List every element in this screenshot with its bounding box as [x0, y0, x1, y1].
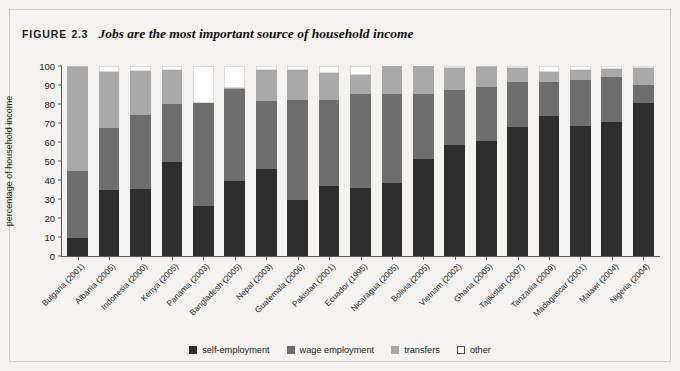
y-axis-tick-mark	[58, 237, 62, 238]
bar-segment-self-employment[interactable]	[570, 126, 591, 256]
bar-segment-self-employment[interactable]	[476, 141, 497, 256]
bar-segment-wage-employment[interactable]	[601, 77, 622, 122]
y-axis-tick-mark	[58, 142, 62, 143]
x-axis-tick-mark	[549, 256, 550, 260]
bar-stack[interactable]	[507, 66, 528, 256]
bar-segment-self-employment[interactable]	[130, 189, 151, 256]
bar-segment-wage-employment[interactable]	[130, 115, 151, 188]
bar-segment-wage-employment[interactable]	[539, 82, 560, 116]
legend-label: transfers	[404, 345, 440, 355]
bar-segment-transfers[interactable]	[601, 69, 622, 78]
bar-stack[interactable]	[570, 66, 591, 256]
bar-segment-wage-employment[interactable]	[476, 87, 497, 141]
y-axis-tick-mark	[58, 161, 62, 162]
bar-stack[interactable]	[256, 66, 277, 256]
bar-segment-wage-employment[interactable]	[224, 89, 245, 181]
bar-segment-transfers[interactable]	[570, 70, 591, 80]
bar-segment-self-employment[interactable]	[444, 145, 465, 256]
bar-segment-wage-employment[interactable]	[570, 80, 591, 126]
bar-segment-transfers[interactable]	[256, 70, 277, 101]
x-axis-tick-mark	[141, 256, 142, 260]
y-axis-tick-mark	[58, 104, 62, 105]
bar-segment-self-employment[interactable]	[162, 162, 183, 256]
bar-segment-self-employment[interactable]	[413, 159, 434, 256]
bar-segment-self-employment[interactable]	[601, 122, 622, 256]
bar-segment-wage-employment[interactable]	[633, 85, 654, 103]
bar-stack[interactable]	[382, 66, 403, 256]
bar-segment-transfers[interactable]	[350, 75, 371, 94]
bar-segment-self-employment[interactable]	[193, 206, 214, 256]
bar-segment-transfers[interactable]	[67, 67, 88, 172]
legend-item-other[interactable]: other	[457, 345, 491, 355]
bar-segment-self-employment[interactable]	[67, 238, 88, 256]
bar-segment-wage-employment[interactable]	[350, 94, 371, 188]
bar-segment-other[interactable]	[350, 66, 371, 75]
y-axis-tick-mark	[58, 180, 62, 181]
bar-segment-transfers[interactable]	[633, 68, 654, 85]
bar-stack[interactable]	[539, 66, 560, 256]
bar-segment-self-employment[interactable]	[224, 181, 245, 256]
y-axis-label: percentage of household income	[4, 96, 14, 227]
bar-segment-wage-employment[interactable]	[67, 171, 88, 238]
bar-segment-other[interactable]	[319, 66, 340, 73]
legend-swatch-icon	[457, 346, 465, 354]
bar-stack[interactable]	[224, 66, 245, 256]
y-axis-tick-mark	[58, 66, 62, 67]
bar-segment-transfers[interactable]	[382, 66, 403, 94]
x-axis-tick-mark	[109, 256, 110, 260]
x-axis-tick-mark	[298, 256, 299, 260]
bar-segment-wage-employment[interactable]	[413, 94, 434, 160]
bar-segment-transfers[interactable]	[162, 70, 183, 104]
bar-segment-wage-employment[interactable]	[444, 90, 465, 145]
bar-segment-self-employment[interactable]	[319, 186, 340, 256]
bar-stack[interactable]	[601, 66, 622, 256]
bar-stack[interactable]	[633, 66, 654, 256]
bar-segment-transfers[interactable]	[539, 72, 560, 82]
bar-segment-transfers[interactable]	[413, 66, 434, 94]
bar-segment-wage-employment[interactable]	[193, 103, 214, 206]
bar-segment-self-employment[interactable]	[633, 103, 654, 256]
bar-segment-transfers[interactable]	[130, 71, 151, 116]
bar-segment-wage-employment[interactable]	[162, 104, 183, 162]
bar-segment-self-employment[interactable]	[382, 183, 403, 256]
bar-segment-wage-employment[interactable]	[287, 100, 308, 200]
bar-stack[interactable]	[287, 66, 308, 256]
legend-item-wage-employment[interactable]: wage employment	[287, 345, 375, 355]
bar-segment-transfers[interactable]	[444, 68, 465, 90]
bar-stack[interactable]	[476, 66, 497, 256]
bar-stack[interactable]	[130, 66, 151, 256]
x-axis-tick-mark	[392, 256, 393, 260]
bar-segment-transfers[interactable]	[476, 67, 497, 87]
bar-segment-other[interactable]	[193, 66, 214, 103]
bar-segment-transfers[interactable]	[99, 72, 120, 128]
bar-segment-wage-employment[interactable]	[319, 100, 340, 186]
x-axis-tick-mark	[643, 256, 644, 260]
y-axis-tick-mark	[58, 123, 62, 124]
bar-segment-self-employment[interactable]	[99, 190, 120, 257]
bar-stack[interactable]	[319, 66, 340, 256]
bar-stack[interactable]	[413, 66, 434, 256]
bar-segment-transfers[interactable]	[287, 70, 308, 100]
bar-stack[interactable]	[193, 66, 214, 256]
bar-segment-self-employment[interactable]	[287, 200, 308, 256]
bar-segment-self-employment[interactable]	[350, 188, 371, 256]
bar-segment-self-employment[interactable]	[507, 127, 528, 256]
bar-segment-wage-employment[interactable]	[99, 128, 120, 190]
bar-stack[interactable]	[162, 66, 183, 256]
bar-stack[interactable]	[444, 66, 465, 256]
bar-segment-other[interactable]	[224, 66, 245, 88]
legend-item-transfers[interactable]: transfers	[391, 345, 440, 355]
bar-segment-transfers[interactable]	[507, 68, 528, 82]
bar-segment-self-employment[interactable]	[539, 116, 560, 256]
x-axis-tick-mark	[235, 256, 236, 260]
bar-segment-wage-employment[interactable]	[507, 82, 528, 127]
bar-segment-transfers[interactable]	[319, 73, 340, 101]
bar-segment-wage-employment[interactable]	[382, 94, 403, 183]
bar-stack[interactable]	[67, 66, 88, 256]
legend-item-self-employment[interactable]: self-employment	[189, 345, 269, 355]
bar-segment-wage-employment[interactable]	[256, 101, 277, 168]
bar-segment-self-employment[interactable]	[256, 169, 277, 256]
x-axis-tick-mark	[203, 256, 204, 260]
bar-stack[interactable]	[350, 66, 371, 256]
bar-stack[interactable]	[99, 66, 120, 256]
